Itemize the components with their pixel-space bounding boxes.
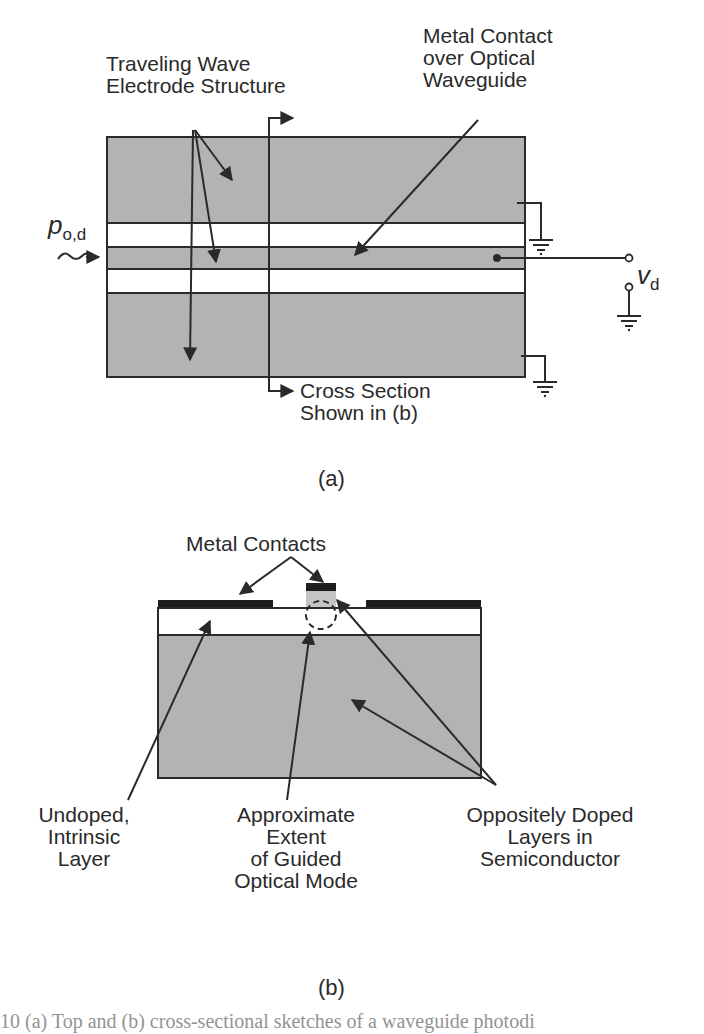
ground-terminal xyxy=(626,284,633,291)
upper-gap xyxy=(107,223,525,247)
metal-contact-label-line1: Metal Contact xyxy=(423,25,553,47)
approx-label-line2: Extent xyxy=(212,826,380,848)
cross-section-label-line2: Shown in (b) xyxy=(300,402,431,424)
traveling-wave-label-line1: Traveling Wave xyxy=(106,53,286,75)
center-signal-electrode xyxy=(107,247,525,269)
approx-label-line4: Optical Mode xyxy=(212,870,380,892)
figure-b-caption: (b) xyxy=(318,975,345,1001)
undoped-label-line2: Intrinsic xyxy=(16,826,152,848)
cross-section-label-line1: Cross Section xyxy=(300,380,431,402)
cross-section-label: Cross Section Shown in (b) xyxy=(300,380,431,424)
upper-doped-ridge xyxy=(306,590,336,608)
voltage-subscript: d xyxy=(650,275,659,294)
input-optical-power-label: po,d xyxy=(48,210,86,245)
oppositely-doped-label: Oppositely Doped Layers in Semiconductor xyxy=(430,804,670,870)
undoped-label-line1: Undoped, xyxy=(16,804,152,826)
approx-label-line1: Approximate xyxy=(212,804,380,826)
power-symbol: p xyxy=(48,210,62,240)
metal-contact-center xyxy=(306,583,336,591)
undoped-label-line3: Layer xyxy=(16,848,152,870)
oppositely-label-line2: Layers in xyxy=(430,826,670,848)
signal-terminal xyxy=(626,255,633,262)
lower-ground-electrode xyxy=(107,293,525,377)
figure-a-top-view xyxy=(58,118,641,397)
traveling-wave-label: Traveling Wave Electrode Structure xyxy=(106,53,286,97)
figure-caption-partial: 10 (a) Top and (b) cross-sectional sketc… xyxy=(0,1010,535,1033)
drive-voltage-label: vd xyxy=(637,260,659,295)
oppositely-label-line3: Semiconductor xyxy=(430,848,670,870)
undoped-intrinsic-label: Undoped, Intrinsic Layer xyxy=(16,804,152,870)
lower-gap xyxy=(107,269,525,293)
lower-doped-layer xyxy=(158,635,481,778)
metal-contact-label-line3: Waveguide xyxy=(423,69,553,91)
approx-label-line3: of Guided xyxy=(212,848,380,870)
upper-ground-electrode xyxy=(107,137,525,223)
approximate-extent-label: Approximate Extent of Guided Optical Mod… xyxy=(212,804,380,892)
power-subscript: o,d xyxy=(62,225,86,244)
metal-contacts-label: Metal Contacts xyxy=(186,533,326,555)
optical-input-arrow xyxy=(58,253,99,259)
voltage-symbol: v xyxy=(637,260,650,290)
ground-icon-lower xyxy=(521,356,557,397)
figure-a-caption: (a) xyxy=(318,466,345,492)
metal-contact-label: Metal Contact over Optical Waveguide xyxy=(423,25,553,91)
traveling-wave-label-line2: Electrode Structure xyxy=(106,75,286,97)
figure-b-cross-section xyxy=(128,557,496,800)
metal-contact-label-line2: over Optical xyxy=(423,47,553,69)
oppositely-label-line1: Oppositely Doped xyxy=(430,804,670,826)
